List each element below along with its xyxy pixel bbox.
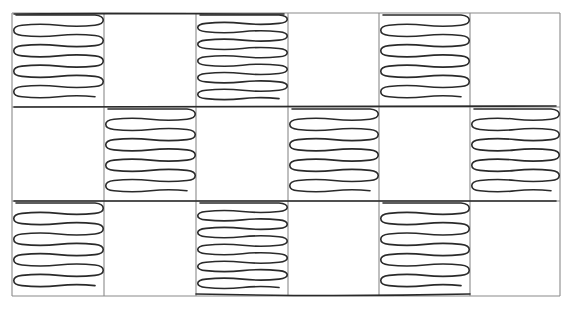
coil-1-1	[106, 109, 196, 192]
connector-stroke	[196, 294, 470, 296]
coil-0-0	[14, 15, 104, 98]
coil-grid-diagram	[0, 0, 571, 310]
coil-2-0	[14, 203, 104, 287]
coil-0-2	[198, 15, 288, 100]
coil-0-4	[381, 15, 470, 98]
coil-2-4	[381, 203, 470, 287]
coil-1-3	[290, 109, 379, 192]
connector-stroke	[14, 106, 556, 107]
coil-1-5	[472, 109, 560, 192]
coils	[14, 15, 560, 289]
connector-stroke	[14, 201, 556, 202]
coil-2-2	[198, 203, 288, 289]
